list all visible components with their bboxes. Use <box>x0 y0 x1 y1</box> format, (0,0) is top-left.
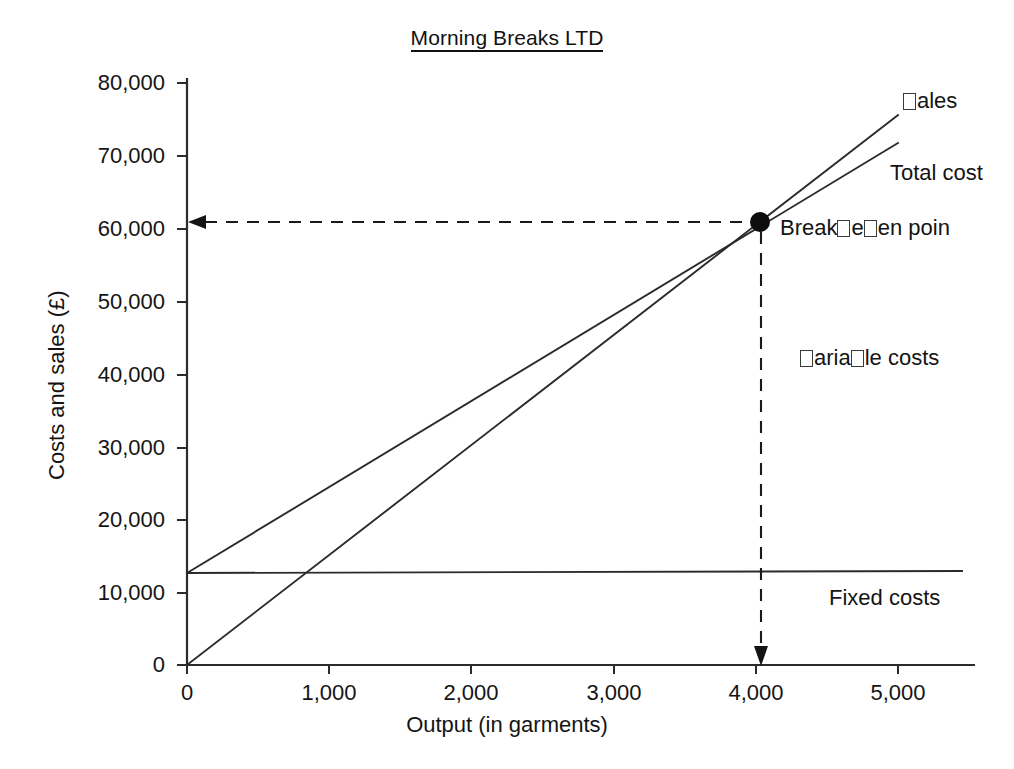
y-tick-label-20000: 20,000 <box>55 507 165 533</box>
annotation-break-even-part2: e <box>851 215 863 240</box>
y-tick-label-40000: 40,000 <box>55 362 165 388</box>
y-axis-title: Costs and sales (£) <box>44 290 70 480</box>
annotation-variable-costs-part2: le costs <box>865 345 940 370</box>
missing-glyph-box-icon <box>903 93 916 110</box>
y-axis-ticks <box>177 83 187 665</box>
annotation-sales: ales <box>903 88 957 114</box>
x-tick-label-5000: 5,000 <box>848 680 948 706</box>
missing-glyph-box-icon <box>864 220 877 237</box>
y-tick-label-0: 0 <box>55 652 165 678</box>
x-tick-label-3000: 3,000 <box>564 680 664 706</box>
y-tick-label-10000: 10,000 <box>55 580 165 606</box>
annotation-total-cost: Total cost <box>890 160 983 186</box>
series-line-total-cost <box>187 143 898 573</box>
y-tick-label-80000: 80,000 <box>55 70 165 96</box>
missing-glyph-box-icon <box>837 220 850 237</box>
x-axis-ticks <box>187 665 898 674</box>
series-line-sales <box>187 115 898 665</box>
x-tick-label-0: 0 <box>137 680 237 706</box>
y-tick-label-30000: 30,000 <box>55 435 165 461</box>
annotation-variable-costs-part1: aria <box>814 345 851 370</box>
missing-glyph-box-icon <box>851 350 864 367</box>
annotation-fixed-costs: Fixed costs <box>829 585 940 611</box>
break-even-revenue-arrow-icon <box>188 215 206 229</box>
missing-glyph-box-icon <box>800 350 813 367</box>
annotation-break-even-part1: Break <box>780 215 837 240</box>
y-tick-label-50000: 50,000 <box>55 289 165 315</box>
x-tick-label-4000: 4,000 <box>706 680 806 706</box>
x-tick-label-1000: 1,000 <box>279 680 379 706</box>
annotation-break-even-point: Breakeen poin <box>780 215 1014 241</box>
series-line-fixed-costs <box>187 571 962 573</box>
x-tick-label-2000: 2,000 <box>421 680 521 706</box>
break-even-output-arrow-icon <box>754 646 768 666</box>
y-tick-label-60000: 60,000 <box>55 216 165 242</box>
y-tick-label-70000: 70,000 <box>55 143 165 169</box>
annotation-break-even-part3: en poin <box>878 215 950 240</box>
break-even-chart: Morning Breaks LTD <box>0 0 1014 769</box>
break-even-point-marker <box>750 212 770 232</box>
annotation-variable-costs: ariale costs <box>800 345 939 371</box>
annotation-sales-text: ales <box>917 88 957 113</box>
x-axis-title: Output (in garments) <box>0 712 1014 738</box>
